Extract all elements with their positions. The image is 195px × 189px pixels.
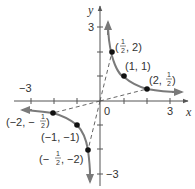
x-axis-label: x (185, 105, 192, 119)
svg-text:2: 2 (41, 122, 45, 129)
point-2-half (144, 86, 150, 92)
svg-text:1: 1 (56, 150, 60, 157)
point-neg2-neghalf (50, 110, 56, 116)
point-half-2 (109, 49, 115, 55)
svg-text:, −2): , −2) (61, 153, 83, 165)
svg-text:(: ( (115, 41, 119, 53)
svg-text:, 2): , 2) (126, 41, 142, 53)
svg-text:): ) (46, 116, 50, 128)
label-point-2-half: (2, 1 2 ) (149, 71, 176, 87)
label-point-neghalf-neg2: (− 1 2 , −2) (39, 150, 83, 166)
tick-label-x-3: 3 (167, 105, 173, 117)
y-axis-label: y (87, 3, 94, 17)
tick-label-origin: 0 (104, 105, 110, 117)
svg-text:1: 1 (121, 38, 125, 45)
reciprocal-function-graph: y x −3 0 3 3 −3 ( 1 2 , 2) (1, 1) (2, 1 … (0, 0, 195, 189)
svg-text:(−: (− (39, 153, 49, 165)
svg-text:(−2, −: (−2, − (6, 116, 35, 128)
tick-label-y-3: 3 (88, 21, 94, 33)
svg-text:): ) (172, 74, 176, 86)
svg-text:2: 2 (121, 47, 125, 54)
svg-text:2: 2 (167, 80, 171, 87)
tick-label-y-neg3: −3 (106, 168, 119, 180)
point-neg1-neg1 (74, 122, 80, 128)
svg-text:1: 1 (41, 113, 45, 120)
svg-text:2: 2 (56, 159, 60, 166)
tick-label-x-neg3: −3 (19, 82, 32, 94)
point-1-1 (121, 73, 127, 79)
label-point-1-1: (1, 1) (125, 60, 151, 72)
svg-text:(2,: (2, (149, 74, 162, 86)
label-point-half-2: ( 1 2 , 2) (115, 38, 142, 54)
point-neghalf-neg2 (85, 147, 91, 153)
svg-text:1: 1 (167, 71, 171, 78)
label-point-neg1-neg1: (−1, −1) (41, 131, 80, 143)
label-point-neg2-neghalf: (−2, − 1 2 ) (6, 113, 50, 129)
